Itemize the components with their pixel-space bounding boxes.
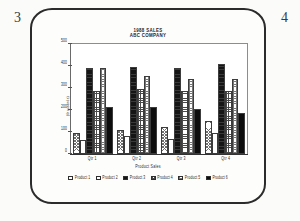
bar [124,136,131,154]
x-tick-label: Qtr 1 [70,156,115,161]
bar [218,64,225,154]
bar [86,68,93,154]
y-tick-label: 0 [65,148,67,153]
legend-label: Product 2 [102,176,117,181]
legend-item: Product 4 [151,176,173,180]
page-number-left: 3 [14,10,21,26]
legend-swatch [178,176,183,180]
y-tick-label: 500 [61,38,67,43]
x-tick-label: Qtr 2 [115,156,160,161]
bar [232,79,239,154]
plot-area: 0100200300400500 [70,43,248,155]
legend-swatch [151,176,156,180]
bar [150,107,157,154]
bar-group [71,44,115,154]
legend-label: Product 3 [130,176,145,181]
bar [194,109,201,154]
legend-label: Product 5 [185,176,200,181]
chart-title: 1988 SALES ABC COMPANY [32,29,264,38]
legend-item: Product 6 [206,176,228,180]
legend-item: Product 2 [96,176,118,180]
chart-legend: Product 1Product 2Product 3Product 4Prod… [44,176,252,180]
bar [225,91,232,154]
bar-group [159,44,203,154]
bar-group [115,44,159,154]
bar [168,139,175,154]
bar [137,89,144,154]
y-tick-label: 200 [61,104,67,109]
bar [117,130,124,154]
y-tick-label: 300 [61,82,67,87]
legend-label: Product 4 [157,176,172,181]
x-axis-title: Product Sales [32,164,264,169]
legend-swatch [96,176,101,180]
bar [161,127,168,155]
bar [106,107,113,154]
bar [144,76,151,154]
bar [212,133,219,154]
legend-item: Product 1 [68,176,90,180]
bar [174,68,181,154]
bar [80,140,87,154]
bar [238,113,245,154]
bar [181,91,188,154]
legend-swatch [123,176,128,180]
page-number-right: 4 [281,10,288,26]
bar [188,79,195,154]
x-axis-line [70,154,248,155]
x-axis-labels: Qtr 1Qtr 2Qtr 3Qtr 4 [70,157,248,161]
y-tick-label: 400 [61,60,67,65]
legend-swatch [206,176,211,180]
x-tick-label: Qtr 4 [204,156,249,161]
legend-label: Product 6 [212,176,227,181]
bar [205,121,212,154]
bar-groups [71,44,247,154]
bar [93,91,100,154]
legend-label: Product 1 [75,176,90,181]
bar-group [203,44,247,154]
legend-item: Product 3 [123,176,145,180]
x-tick-label: Qtr 3 [159,156,204,161]
monitor-bezel: 1988 SALES ABC COMPANY (thousands) 01002… [30,8,266,204]
bar [130,67,137,154]
bar [73,133,80,154]
legend-swatch [68,176,73,180]
chart-screen: 1988 SALES ABC COMPANY (thousands) 01002… [32,10,264,202]
bar [100,68,107,154]
y-tick-label: 100 [61,126,67,131]
legend-item: Product 5 [178,176,200,180]
